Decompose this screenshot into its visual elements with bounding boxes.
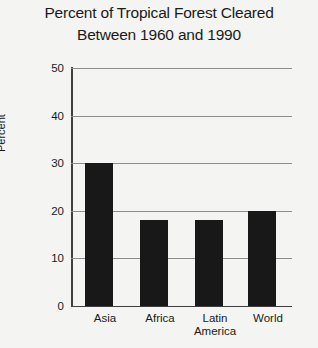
y-tick-label-10: 10 [0,253,64,265]
chart-title-line-1: Percent of Tropical Forest Cleared [0,2,318,24]
bar-world[interactable] [248,211,276,306]
x-label-world: World [218,312,318,325]
bar-africa[interactable] [140,220,168,306]
gridline-40 [71,116,292,117]
y-tick-label-20: 20 [0,206,64,218]
chart-title: Percent of Tropical Forest Cleared Betwe… [0,2,318,46]
y-tick-label-50: 50 [0,63,64,75]
gridline-50 [71,68,292,69]
plot-area [71,68,292,306]
bar-asia[interactable] [85,163,113,306]
chart-title-line-2: Between 1960 and 1990 [0,24,318,46]
bar-chart: Percent of Tropical Forest Cleared Betwe… [0,0,318,348]
bar-latin-america[interactable] [195,220,223,306]
y-tick-label-40: 40 [0,111,64,123]
y-tick-label-30: 30 [0,158,64,170]
y-tick-label-0: 0 [0,301,64,313]
